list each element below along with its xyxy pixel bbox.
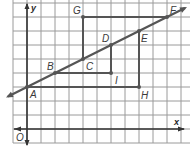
point-label-H: H xyxy=(141,90,149,101)
point-label-I: I xyxy=(115,75,118,86)
point-D xyxy=(109,43,113,47)
point-label-D: D xyxy=(102,33,109,44)
grid-lines xyxy=(13,0,190,143)
y-axis-label: y xyxy=(30,3,37,13)
point-F xyxy=(165,15,169,19)
y-axis-arrow-icon xyxy=(25,3,30,9)
point-label-A: A xyxy=(29,89,37,100)
point-label-G: G xyxy=(73,5,81,16)
origin-label: O xyxy=(16,132,24,143)
x-axis-arrow-left-icon xyxy=(14,127,21,132)
point-H xyxy=(137,85,141,89)
point-I xyxy=(109,71,113,75)
point-A xyxy=(25,85,29,89)
point-label-F: F xyxy=(170,5,177,16)
point-label-C: C xyxy=(86,61,94,72)
point-G xyxy=(81,15,85,19)
point-C xyxy=(81,57,85,61)
point-label-E: E xyxy=(141,33,148,44)
point-label-B: B xyxy=(47,61,54,72)
axes xyxy=(14,3,185,146)
coordinate-grid-diagram: ABCDEFGHI y x O xyxy=(0,0,190,156)
x-axis-label: x xyxy=(173,117,180,127)
